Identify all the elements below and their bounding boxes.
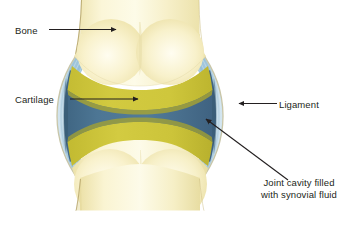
joint-diagram: Bone Cartilage Ligament Joint cavity fil… — [0, 0, 340, 232]
label-cartilage: Cartilage — [15, 94, 54, 106]
label-ligament: Ligament — [279, 99, 319, 111]
lower-bone-shaft — [74, 164, 206, 232]
joint-cavity-leader-line — [206, 119, 288, 180]
label-bone: Bone — [15, 25, 38, 37]
label-joint-cavity: Joint cavity filled with synovial fluid — [261, 177, 337, 200]
